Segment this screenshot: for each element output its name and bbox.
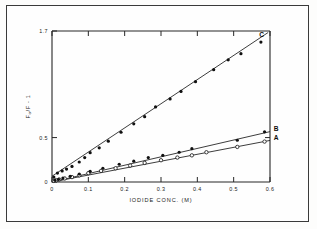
data-point-B-9 bbox=[147, 156, 150, 159]
x-axis-title: IODIDE CONC. (M) bbox=[129, 197, 192, 203]
data-point-C-20 bbox=[259, 41, 262, 44]
y-axis-title: Fo/F - 1 bbox=[25, 94, 32, 118]
data-point-C-19 bbox=[239, 52, 242, 55]
data-point-A-10 bbox=[143, 161, 146, 164]
data-point-B-6 bbox=[101, 167, 104, 170]
x-tick-label-5: 0.5 bbox=[229, 186, 238, 192]
data-point-C-1 bbox=[56, 172, 59, 175]
data-point-C-15 bbox=[179, 90, 182, 93]
data-point-C-14 bbox=[168, 97, 171, 100]
fit-line-C bbox=[52, 32, 268, 176]
x-tick-label-3: 0.3 bbox=[157, 186, 166, 192]
data-point-A-14 bbox=[205, 151, 208, 154]
data-point-A-11 bbox=[159, 159, 162, 162]
data-point-C-9 bbox=[107, 140, 110, 143]
plot-area: 00.10.20.30.40.50.600.51.7IODIDE CONC. (… bbox=[0, 0, 317, 229]
data-point-C-10 bbox=[119, 131, 122, 134]
data-point-C-18 bbox=[227, 58, 230, 61]
data-point-C-4 bbox=[70, 165, 73, 168]
data-point-B-12 bbox=[190, 147, 193, 150]
y-tick-label-1: 0.5 bbox=[39, 135, 48, 141]
data-point-B-7 bbox=[118, 163, 121, 166]
data-point-C-6 bbox=[83, 156, 86, 159]
x-tick-label-2: 0.2 bbox=[120, 186, 129, 192]
data-point-B-11 bbox=[178, 151, 181, 154]
y-tick-label-0: 0 bbox=[45, 179, 48, 185]
data-point-C-16 bbox=[194, 80, 197, 83]
data-point-B-14 bbox=[263, 130, 266, 133]
figure-container: 00.10.20.30.40.50.600.51.7IODIDE CONC. (… bbox=[0, 0, 317, 229]
data-point-A-9 bbox=[128, 164, 131, 167]
data-point-B-8 bbox=[132, 160, 135, 163]
data-point-B-5 bbox=[89, 170, 92, 173]
data-point-C-17 bbox=[212, 68, 215, 71]
data-point-B-2 bbox=[61, 176, 64, 179]
data-point-A-8 bbox=[114, 167, 117, 170]
data-point-C-13 bbox=[154, 105, 157, 108]
data-point-B-4 bbox=[78, 172, 81, 175]
data-point-A-13 bbox=[190, 154, 193, 157]
data-point-C-5 bbox=[78, 160, 81, 163]
data-point-C-0 bbox=[52, 176, 55, 179]
data-point-C-7 bbox=[89, 151, 92, 154]
series-label-A: A bbox=[274, 134, 279, 141]
data-point-C-8 bbox=[98, 146, 101, 149]
data-point-C-12 bbox=[143, 115, 146, 118]
data-point-B-1 bbox=[57, 178, 60, 181]
scatter-chart-svg: 00.10.20.30.40.50.600.51.7IODIDE CONC. (… bbox=[0, 0, 317, 229]
x-tick-label-4: 0.4 bbox=[193, 186, 202, 192]
data-point-B-0 bbox=[53, 179, 56, 182]
data-point-A-7 bbox=[99, 169, 102, 172]
data-point-C-2 bbox=[61, 169, 64, 172]
data-point-A-15 bbox=[236, 145, 239, 148]
data-point-C-11 bbox=[132, 122, 135, 125]
y-tick-label-2: 1.7 bbox=[39, 28, 48, 34]
data-point-B-13 bbox=[236, 139, 239, 142]
data-point-A-16 bbox=[263, 140, 266, 143]
data-point-C-3 bbox=[65, 168, 68, 171]
series-label-B: B bbox=[274, 125, 279, 132]
data-point-A-12 bbox=[176, 156, 179, 159]
x-tick-label-0: 0 bbox=[50, 186, 53, 192]
series-label-C: C bbox=[259, 31, 264, 38]
x-tick-label-6: 0.6 bbox=[266, 186, 275, 192]
x-tick-label-1: 0.1 bbox=[84, 186, 93, 192]
data-point-B-10 bbox=[161, 154, 164, 157]
data-point-B-3 bbox=[69, 175, 72, 178]
